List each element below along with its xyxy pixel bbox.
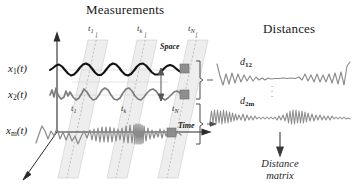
distance-label-d12-sub: 12 [245, 61, 252, 69]
endpoint-marker-xm [167, 128, 176, 137]
signal-label-x1: x1(t) [8, 62, 27, 76]
distance-d12-curve [217, 62, 350, 85]
distance-matrix-label-line2: matrix [240, 170, 320, 182]
time-axis-label: Time [178, 121, 195, 130]
signal-label-x2: x2(t) [8, 88, 27, 102]
time-tick-inner-t1: t1 [71, 103, 76, 114]
distance-d2m-curve [210, 110, 350, 124]
brace-connectors [207, 80, 216, 126]
brace-lower [196, 104, 203, 144]
time-tick-top-tk: tk [137, 23, 142, 34]
time-tick-inner-tN-sub: N [174, 108, 178, 114]
endpoint-marker-x2 [180, 90, 189, 99]
time-tick-inner-tk-sub: k [123, 108, 126, 114]
space-axis [54, 33, 59, 132]
time-tick-top-t1: t1 [88, 23, 94, 34]
time-tick-top-tk-sub: k [140, 27, 143, 34]
signal-xm-curve [36, 124, 181, 144]
distance-label-d2m-sub: 2m [245, 100, 254, 108]
distance-matrix-label: Distance matrix [240, 158, 320, 182]
top-tick-stubs [96, 32, 197, 38]
distance-label-d12: d12 [240, 56, 252, 69]
endpoint-marker-x1 [180, 64, 189, 73]
depth-axis [23, 132, 57, 180]
signal-label-xm: xm(t) [6, 124, 27, 138]
time-tick-top-tN: tN [188, 23, 195, 34]
signal-label-x2-suffix: (t) [17, 88, 27, 100]
space-axis-label: Space [160, 42, 180, 51]
time-tick-inner-t1-sub: 1 [73, 108, 76, 114]
time-tick-top-t1-sub: 1 [91, 27, 94, 34]
distance-matrix-label-line1: Distance [240, 158, 320, 170]
time-tick-inner-tN: tN [172, 103, 178, 114]
distance-arrow [158, 68, 164, 101]
measurements-plot [0, 0, 215, 189]
signal-label-xm-suffix: (t) [17, 124, 27, 136]
distance-label-d2m: d2m [240, 95, 254, 108]
time-tick-top-tN-sub: N [191, 27, 195, 34]
ellipsis-dot-3: · [268, 94, 276, 99]
signal-label-x1-suffix: (t) [17, 62, 27, 74]
figure-root: Measurements Distances [0, 0, 363, 189]
time-tick-inner-tk: tk [121, 103, 126, 114]
distances-vertical-ellipsis: · · · [268, 84, 276, 99]
distance-matrix-arrow [277, 132, 283, 156]
time-slice-planes [58, 40, 208, 178]
